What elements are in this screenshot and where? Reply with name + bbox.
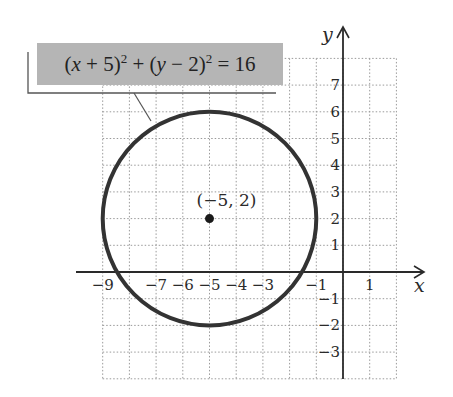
label-leader-line	[134, 93, 151, 121]
circle-graph: y x −9−7−6−5−4−3−117654321−1−2−3 (−5, 2)…	[0, 0, 453, 397]
y-tick-label: 7	[330, 76, 340, 94]
y-tick-label: −2	[318, 316, 340, 334]
x-axis-label: x	[414, 274, 425, 296]
y-tick-label: 3	[330, 183, 340, 201]
y-tick-label: 1	[330, 236, 340, 254]
y-tick-label: 6	[330, 103, 340, 121]
x-tick-label: 1	[365, 276, 375, 294]
x-tick-label: −3	[252, 276, 274, 294]
y-tick-label: −3	[318, 343, 340, 361]
grid-lines	[103, 58, 397, 378]
center-point	[205, 214, 214, 223]
y-axis-label: y	[321, 23, 333, 45]
y-tick-label: −1	[318, 290, 340, 308]
center-point-label: (−5, 2)	[197, 190, 257, 210]
x-tick-label: −5	[198, 276, 220, 294]
y-tick-label: 4	[330, 156, 340, 174]
y-tick-label: 5	[330, 130, 340, 148]
x-tick-label: −6	[172, 276, 194, 294]
y-tick-label: 2	[330, 210, 340, 228]
x-tick-label: −4	[225, 276, 247, 294]
equation-label: (x + 5)2 + (y − 2)2 = 16	[37, 43, 283, 85]
equation-label-box: (x + 5)2 + (y − 2)2 = 16	[37, 43, 283, 85]
x-tick-label: −9	[92, 276, 114, 294]
x-tick-label: −7	[145, 276, 167, 294]
